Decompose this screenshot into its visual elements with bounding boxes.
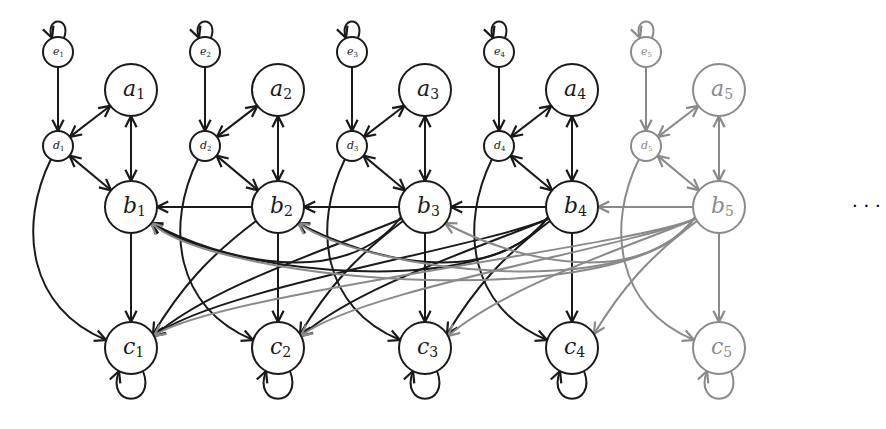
ellipsis: · · · (852, 195, 881, 216)
edge-d-b (658, 156, 700, 191)
self-loop-e (51, 22, 66, 39)
self-loop-e (639, 22, 654, 39)
node-c3: c3 (399, 322, 451, 374)
node-a2: a2 (252, 64, 304, 116)
edge-d-a (217, 106, 257, 137)
self-loop-c (558, 371, 587, 399)
edge-d-c (33, 159, 106, 340)
node-d3: d3 (337, 131, 367, 161)
graph-diagram: e1a1d1b1c1e2a2d2b2c2e3a3d3b3c3e4a4d4b4c4… (0, 0, 886, 429)
node-e3: e3 (337, 37, 367, 67)
node-c1: c1 (105, 322, 157, 374)
node-d2: d2 (190, 131, 220, 161)
self-loop-c (264, 371, 293, 399)
node-d5: d5 (631, 131, 661, 161)
node-c5: c5 (693, 322, 745, 374)
edge-b-b-long (151, 217, 548, 271)
edge-b-b-long (298, 217, 695, 271)
node-a3: a3 (399, 64, 451, 116)
node-b3: b3 (399, 181, 451, 233)
edge-d-a (658, 106, 698, 137)
self-loop-e (492, 22, 507, 39)
edge-d-a (511, 106, 551, 137)
edge-d-a (364, 106, 404, 137)
edge-d-b (217, 156, 259, 191)
node-e4: e4 (484, 37, 514, 67)
node-a4: a4 (546, 64, 598, 116)
node-e1: e1 (43, 37, 73, 67)
self-loop-e (345, 22, 360, 39)
node-a1: a1 (105, 64, 157, 116)
node-b4: b4 (546, 181, 598, 233)
self-loop-c (705, 371, 734, 399)
node-e5: e5 (631, 37, 661, 67)
node-d4: d4 (484, 131, 514, 161)
node-b1: b1 (105, 181, 157, 233)
nodes-layer: e1a1d1b1c1e2a2d2b2c2e3a3d3b3c3e4a4d4b4c4… (43, 37, 745, 374)
edge-d-a (70, 106, 110, 137)
edge-d-b (511, 156, 553, 191)
self-loop-c (117, 371, 146, 399)
node-c4: c4 (546, 322, 598, 374)
edge-d-b (364, 156, 406, 191)
node-b2: b2 (252, 181, 304, 233)
self-loop-e (198, 22, 213, 39)
node-a5: a5 (693, 64, 745, 116)
node-d1: d1 (43, 131, 73, 161)
self-loop-c (411, 371, 440, 399)
node-c2: c2 (252, 322, 304, 374)
node-b5: b5 (693, 181, 745, 233)
node-e2: e2 (190, 37, 220, 67)
edge-d-b (70, 156, 112, 191)
